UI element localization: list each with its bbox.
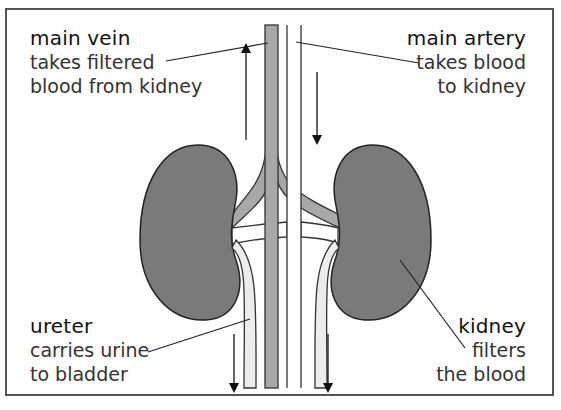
ureter-leader [148, 319, 250, 352]
kidney-desc-1: filters [436, 338, 526, 362]
kidney-title: kidney [436, 314, 526, 338]
main-artery-desc-1: takes blood [407, 50, 526, 74]
renal-vein-branches [232, 150, 340, 228]
main-artery-label: main artery takes blood to kidney [407, 26, 526, 98]
ureter-title: ureter [30, 314, 149, 338]
main-vein-label: main vein takes filtered blood from kidn… [30, 26, 202, 98]
main-vein-desc-1: takes filtered [30, 50, 202, 74]
main-artery-title: main artery [407, 26, 526, 50]
renal-artery-branches [232, 222, 338, 244]
artery-leader [296, 42, 419, 63]
main-artery [287, 25, 301, 388]
kidney-desc-2: the blood [436, 362, 526, 386]
ureter-label: ureter carries urine to bladder [30, 314, 149, 386]
ureter-desc-1: carries urine [30, 338, 149, 362]
ureters [232, 240, 339, 388]
main-vein [265, 25, 278, 388]
main-vein-title: main vein [30, 26, 202, 50]
main-vein-desc-2: blood from kidney [30, 74, 202, 98]
ureter-desc-2: to bladder [30, 362, 149, 386]
left-kidney [140, 145, 240, 320]
main-artery-desc-2: to kidney [407, 74, 526, 98]
right-kidney [331, 145, 431, 320]
kidney-label: kidney filters the blood [436, 314, 526, 386]
